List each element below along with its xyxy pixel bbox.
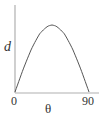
y-axis-label: d xyxy=(4,40,11,54)
data-curve xyxy=(15,25,89,92)
x-axis-label: θ xyxy=(45,102,51,115)
x-tick-0: 0 xyxy=(11,95,17,107)
x-tick-90: 90 xyxy=(82,95,94,107)
